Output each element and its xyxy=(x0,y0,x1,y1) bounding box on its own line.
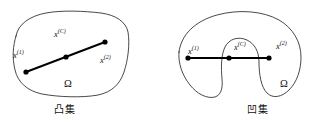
convex-point-x2 xyxy=(102,39,107,44)
concave-point-x2 xyxy=(266,55,271,60)
concave-caption: 凹集 xyxy=(247,105,268,115)
convex-point-x1 xyxy=(23,69,28,74)
convex-caption: 凸集 xyxy=(54,105,75,115)
panel-concave-set: x(1) x(C) x(2) Ω 凹集 xyxy=(159,0,319,124)
concave-label-xc: x(C) xyxy=(234,41,246,51)
concave-region-omega-label: Ω xyxy=(280,79,288,90)
concave-point-xc xyxy=(226,55,231,60)
panel-convex-set: x(1) x(C) x(2) Ω 凸集 xyxy=(0,0,160,124)
convex-label-x2: x(2) xyxy=(100,54,111,64)
convex-point-xc xyxy=(63,54,68,59)
figure-canvas: x(1) x(C) x(2) Ω 凸集 x(1) x(C) x(2) Ω 凹集 xyxy=(0,0,319,124)
concave-set-drawing xyxy=(159,0,319,124)
concave-point-x1 xyxy=(185,55,190,60)
concave-label-x1: x(1) xyxy=(188,45,199,55)
concave-label-x2: x(2) xyxy=(276,40,287,50)
convex-set-drawing xyxy=(0,0,160,124)
convex-region-omega-label: Ω xyxy=(64,79,72,90)
convex-label-xc: x(C) xyxy=(54,28,66,38)
convex-label-x1: x(1) xyxy=(13,49,24,59)
